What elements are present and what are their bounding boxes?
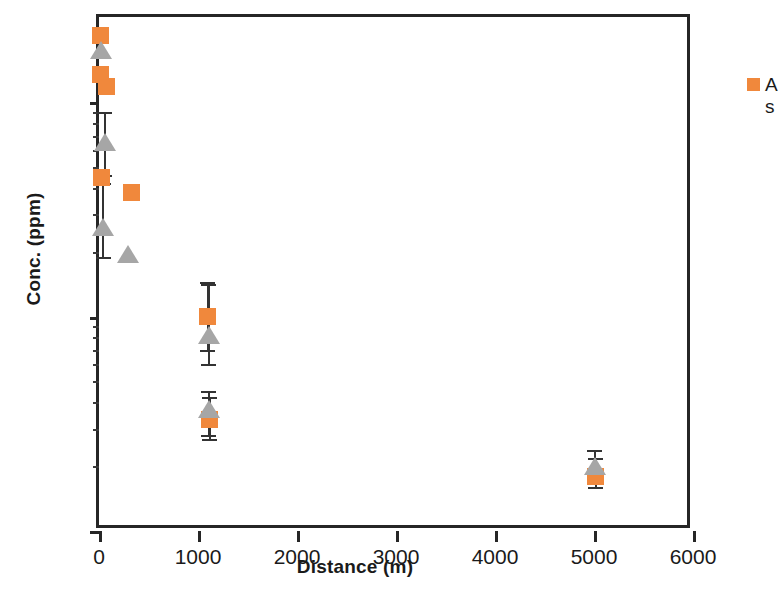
y-tick-minor xyxy=(93,252,99,254)
error-bar-cap xyxy=(201,391,216,393)
y-tick-minor xyxy=(93,350,99,352)
y-tick-minor xyxy=(93,123,99,125)
data-point-triangle xyxy=(117,245,139,263)
x-tick-label: 6000 xyxy=(633,545,753,569)
plot-area: 1010010000100020003000400050006000 A s xyxy=(96,14,690,528)
error-bar-cap xyxy=(96,257,111,259)
y-tick-minor xyxy=(93,364,99,366)
y-tick-major xyxy=(90,102,99,105)
x-tick xyxy=(495,531,498,542)
error-bar-cap xyxy=(201,435,216,437)
data-point-square xyxy=(98,78,115,95)
data-point-triangle xyxy=(198,400,220,418)
y-axis-title: Conc. (ppm) xyxy=(23,149,45,349)
y-tick-minor xyxy=(93,429,99,431)
x-tick xyxy=(198,531,201,542)
error-bar-cap xyxy=(588,487,603,489)
legend-label-line2: s xyxy=(765,97,783,117)
data-point-triangle xyxy=(90,41,112,59)
data-point-triangle xyxy=(92,218,114,236)
y-tick-minor xyxy=(93,337,99,339)
x-tick xyxy=(396,531,399,542)
plot-canvas: 1010010000100020003000400050006000 xyxy=(99,17,687,525)
y-tick-minor xyxy=(93,466,99,468)
x-tick xyxy=(99,531,102,542)
y-tick-minor xyxy=(93,188,99,190)
x-tick xyxy=(693,531,696,542)
y-tick-minor xyxy=(93,214,99,216)
y-tick-minor xyxy=(93,326,99,328)
y-tick-minor xyxy=(93,402,99,404)
error-bar-cap xyxy=(201,284,216,286)
data-point-square xyxy=(123,184,140,201)
error-bar-cap xyxy=(202,397,217,399)
data-point-square xyxy=(199,308,216,325)
legend-label-line1: A xyxy=(765,75,778,95)
x-tick xyxy=(594,531,597,542)
y-tick-major xyxy=(90,531,99,534)
x-tick xyxy=(297,531,300,542)
legend-item-as: A xyxy=(747,75,783,95)
data-point-square xyxy=(93,169,110,186)
legend-square-icon xyxy=(747,78,760,91)
chart-legend: A s xyxy=(747,75,783,117)
data-point-triangle xyxy=(198,326,220,344)
error-bar-cap xyxy=(587,450,602,452)
error-bar-cap xyxy=(97,112,112,114)
y-tick-minor xyxy=(93,381,99,383)
data-point-triangle xyxy=(94,133,116,151)
error-bar-cap xyxy=(201,364,216,366)
error-bar-cap xyxy=(202,439,217,441)
y-tick-major xyxy=(90,317,99,320)
data-point-triangle xyxy=(584,457,606,475)
